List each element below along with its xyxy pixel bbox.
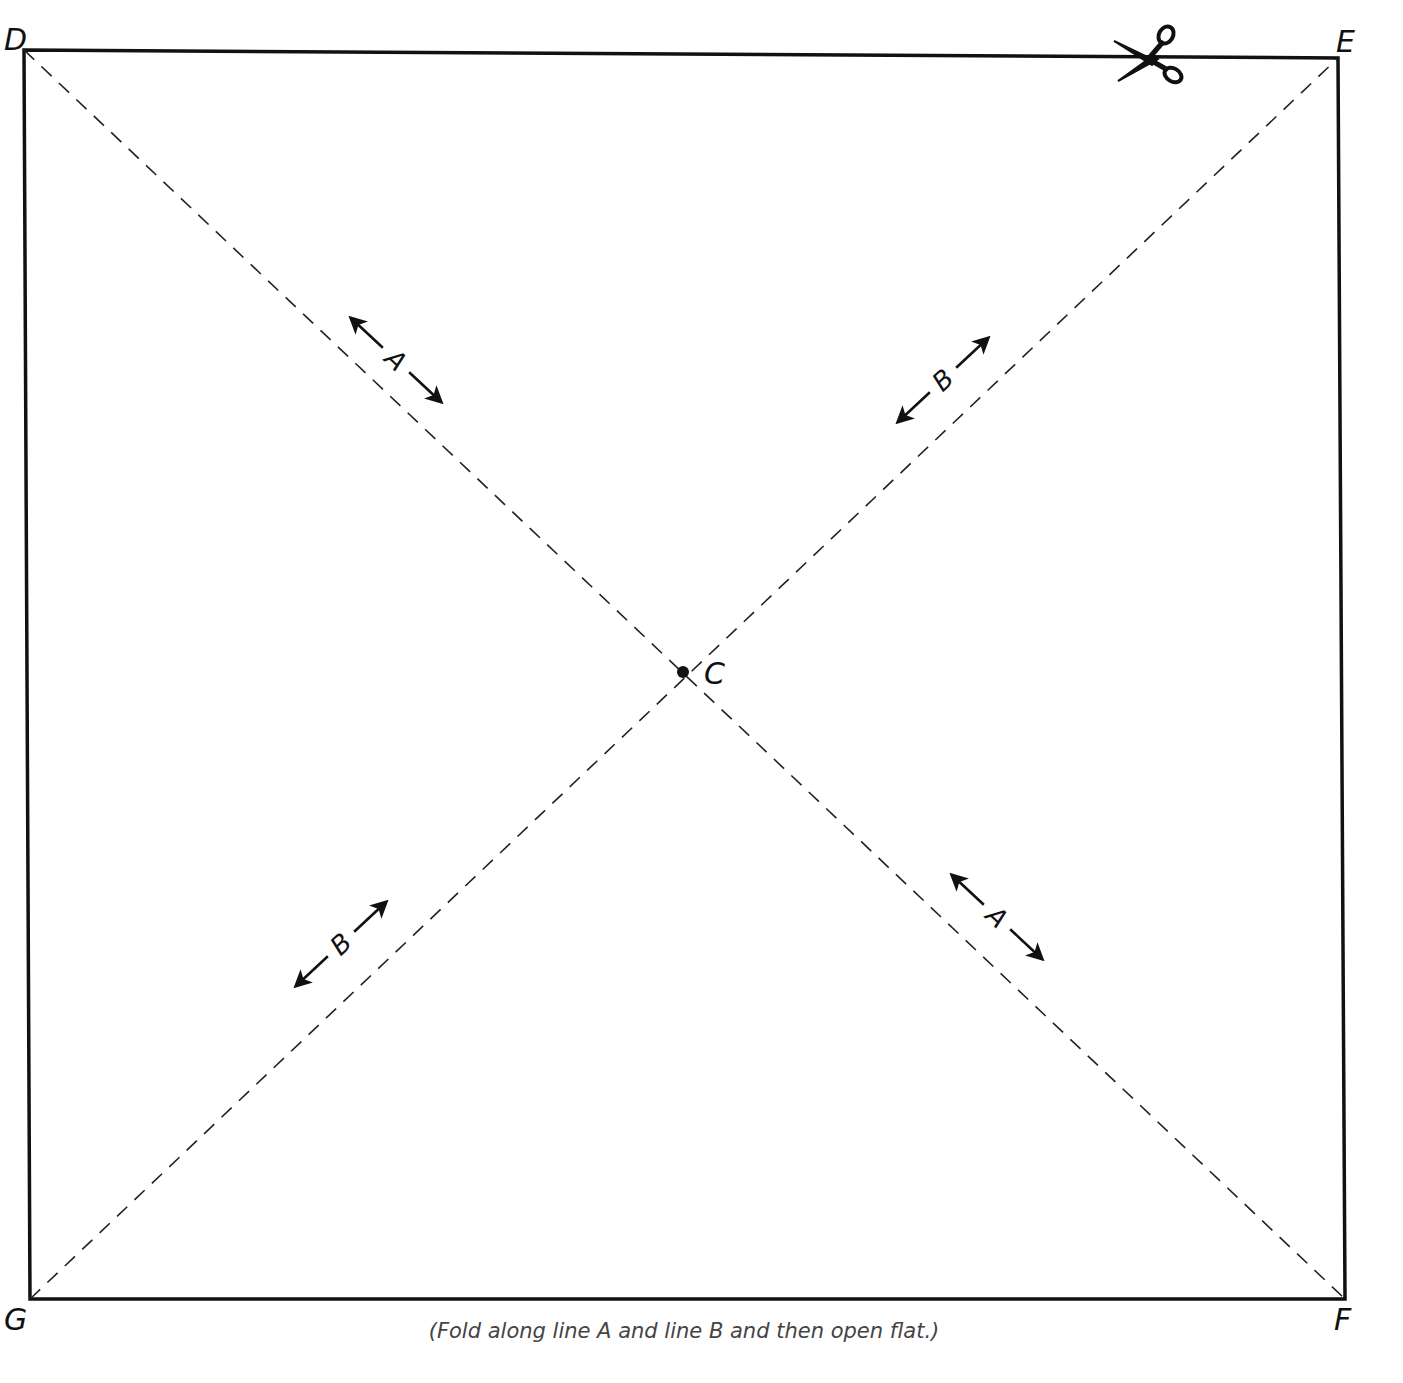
corner-label-e: E <box>1336 24 1355 59</box>
corner-label-d: D <box>4 22 27 57</box>
instruction-caption: (Fold along line A and line B and then o… <box>429 1319 940 1343</box>
fold-arrow-label: B <box>926 363 960 397</box>
fold-line-b <box>30 58 1338 1299</box>
fold-arrow-b-lower: B <box>285 891 396 998</box>
fold-arrow-a-lower: A <box>941 864 1052 971</box>
corner-label-g: G <box>4 1302 27 1337</box>
corner-label-f: F <box>1334 1302 1352 1337</box>
center-point <box>677 666 689 678</box>
fold-template-diagram: C D E F G A B B A (Fold al <box>0 0 1403 1383</box>
fold-arrow-a-upper: A <box>340 307 451 414</box>
scissors-icon <box>1114 24 1184 85</box>
fold-arrow-label: B <box>324 927 358 961</box>
fold-arrow-b-upper: B <box>887 327 998 434</box>
center-label: C <box>704 656 725 691</box>
